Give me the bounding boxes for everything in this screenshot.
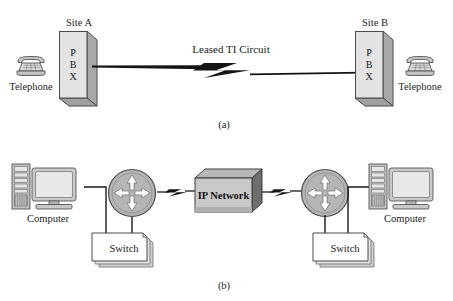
pbx-box-site-b: P B X [355, 31, 397, 109]
pbx-letter-p-b: P [366, 47, 372, 59]
lightning-bolt-icon-a [193, 63, 250, 78]
computer-icon-right [367, 163, 443, 217]
link-ipnet-router-right [262, 185, 302, 199]
telephone-icon-right [400, 52, 440, 82]
router-icon-left [107, 168, 157, 222]
telephone-label-right: Telephone [398, 82, 442, 93]
leased-circuit-label: Leased TI Circuit [192, 44, 269, 55]
telephone-label-left: Telephone [9, 82, 53, 93]
pbx-letter-x-a: X [69, 71, 76, 83]
caption-b: (b) [218, 281, 230, 292]
pbx-letter-p-a: P [70, 47, 76, 59]
pbx-letters-a: P B X [59, 31, 87, 98]
pbx-letter-x-b: X [365, 71, 372, 83]
pbx-letters-b: P B X [355, 31, 383, 98]
lightning-bolt-icon-b2 [270, 189, 292, 196]
pbx-letter-b-b: B [366, 59, 373, 71]
leased-line-connector [92, 58, 362, 84]
link-router-ipnet-left [157, 185, 197, 199]
computer-icon-left [10, 163, 86, 217]
lightning-bolt-icon-b1 [165, 189, 187, 196]
switch-label-right: Switch [330, 243, 359, 254]
computer-label-left: Computer [27, 214, 69, 225]
site-a-label: Site A [66, 18, 92, 29]
figure-canvas: Site A P B X Telephone [0, 0, 453, 301]
ip-network-box: IP Network [193, 167, 265, 223]
pbx-letter-b-a: B [70, 59, 77, 71]
caption-a: (a) [218, 120, 230, 131]
computer-label-right: Computer [384, 214, 426, 225]
ip-network-label: IP Network [193, 178, 254, 212]
switch-label-left: Switch [109, 243, 138, 254]
site-b-label: Site B [362, 18, 388, 29]
telephone-icon-left [11, 52, 51, 82]
